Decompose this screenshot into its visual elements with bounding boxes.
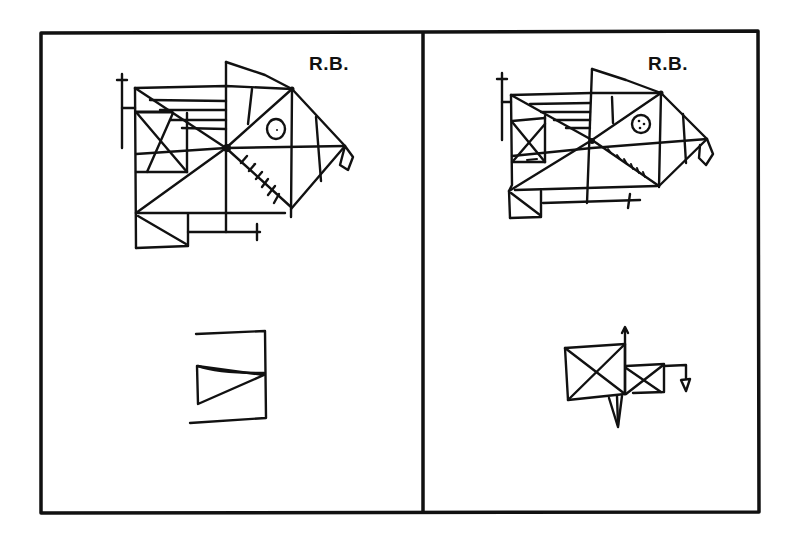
right-recall-fragment <box>565 327 690 427</box>
outer-frame <box>41 31 759 513</box>
panel-label-right: R.B. <box>648 53 688 74</box>
panel-label-left: R.B. <box>309 53 349 74</box>
left-panel: R.B. <box>117 53 353 423</box>
right-complex-figure <box>497 69 713 218</box>
right-panel: R.B. <box>497 53 713 427</box>
left-recall-fragment <box>190 331 266 423</box>
figure-canvas: R.B. <box>0 0 791 545</box>
left-complex-figure <box>117 62 353 248</box>
